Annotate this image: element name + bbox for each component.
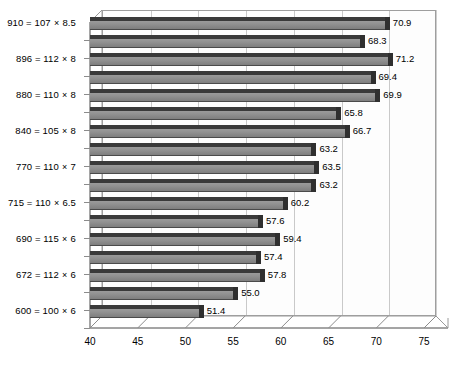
bar-end-cap [375, 89, 380, 102]
bar-value-label: 69.9 [383, 90, 402, 100]
category-label: 840 = 105 × 8 [15, 126, 76, 136]
bar-end-cap [275, 233, 280, 246]
bar-front-face [90, 111, 336, 120]
bar-front-face [90, 93, 375, 102]
bar-end-cap [336, 107, 341, 120]
bar[interactable] [90, 197, 288, 210]
bar-chart: 910 = 107 × 8.5896 = 112 × 8880 = 110 × … [0, 0, 459, 366]
bar-value-label: 51.4 [207, 306, 226, 316]
bar[interactable] [90, 233, 280, 246]
x-tick-label: 55 [228, 336, 239, 347]
bar-end-cap [199, 305, 204, 318]
category-label: 600 = 100 × 6 [15, 306, 76, 316]
bar-value-label: 57.8 [268, 270, 287, 280]
bar-front-face [90, 219, 258, 228]
bar-front-face [90, 237, 275, 246]
bar[interactable] [90, 215, 263, 228]
bar[interactable] [90, 35, 365, 48]
bar[interactable] [90, 125, 350, 138]
bar-front-face [90, 291, 233, 300]
y-tick-mark [84, 310, 90, 311]
y-tick-mark [84, 94, 90, 95]
x-tick-label: 40 [84, 336, 95, 347]
bar-value-label: 63.2 [319, 180, 338, 190]
category-label: 880 = 110 × 8 [16, 90, 76, 100]
bar-value-label: 57.4 [264, 252, 283, 262]
bar-value-label: 57.6 [266, 216, 285, 226]
bar-front-face [90, 273, 260, 282]
x-tick-label: 70 [371, 336, 382, 347]
bar[interactable] [90, 251, 261, 264]
category-label: 672 = 112 × 6 [16, 270, 76, 280]
bar-front-face [90, 129, 345, 138]
bar[interactable] [90, 89, 380, 102]
bar[interactable] [90, 305, 204, 318]
x-tick-label: 75 [418, 336, 429, 347]
category-label: 910 = 107 × 8.5 [7, 18, 76, 28]
bar-end-cap [233, 287, 238, 300]
bar-front-face [90, 309, 199, 318]
bar-end-cap [388, 53, 393, 66]
bar-front-face [90, 255, 256, 264]
bar-front-face [90, 201, 283, 210]
bar-value-label: 69.4 [379, 72, 398, 82]
bar-end-cap [311, 179, 316, 192]
bar[interactable] [90, 287, 238, 300]
y-tick-mark [84, 184, 90, 185]
bar-value-label: 65.8 [344, 108, 363, 118]
y-tick-mark [84, 220, 90, 221]
bar-front-face [90, 21, 385, 30]
bar-value-label: 68.3 [368, 36, 387, 46]
bar-value-label: 70.9 [393, 18, 412, 28]
bar-end-cap [260, 269, 265, 282]
bar-end-cap [314, 161, 319, 174]
bar-front-face [90, 39, 360, 48]
x-tick-label: 60 [275, 336, 286, 347]
y-tick-mark [84, 130, 90, 131]
category-label: 896 = 112 × 8 [16, 54, 76, 64]
bar[interactable] [90, 143, 316, 156]
x-tick-label: 65 [323, 336, 334, 347]
bar[interactable] [90, 107, 341, 120]
bar-value-label: 71.2 [396, 54, 415, 64]
category-label: 770 = 110 × 7 [16, 162, 76, 172]
bar-end-cap [371, 71, 376, 84]
bar-value-label: 59.4 [283, 234, 302, 244]
bar-front-face [90, 183, 311, 192]
bar-front-face [90, 165, 314, 174]
x-tick-label: 50 [180, 336, 191, 347]
bar-end-cap [385, 17, 390, 30]
bar-end-cap [345, 125, 350, 138]
bar[interactable] [90, 53, 393, 66]
category-label: 690 = 115 × 6 [16, 234, 76, 244]
bar[interactable] [90, 71, 376, 84]
bar-end-cap [258, 215, 263, 228]
bar-value-label: 63.2 [319, 144, 338, 154]
x-axis-tick-labels: 4045505560657075 [0, 336, 459, 356]
bar-value-label: 66.7 [353, 126, 372, 136]
x-tick-label: 45 [132, 336, 143, 347]
y-tick-mark [84, 40, 90, 41]
bar-value-label: 55.0 [241, 288, 260, 298]
y-tick-mark [84, 238, 90, 239]
y-tick-mark [84, 58, 90, 59]
bar-end-cap [360, 35, 365, 48]
bar-front-face [90, 75, 371, 84]
bar-end-cap [311, 143, 316, 156]
y-tick-mark [84, 256, 90, 257]
y-tick-mark [84, 202, 90, 203]
bar[interactable] [90, 17, 390, 30]
y-tick-mark [84, 166, 90, 167]
category-axis-labels: 910 = 107 × 8.5896 = 112 × 8880 = 110 × … [0, 0, 78, 366]
y-tick-mark [84, 112, 90, 113]
bar-value-label: 63.5 [322, 162, 341, 172]
bar-front-face [90, 147, 311, 156]
y-tick-mark [84, 148, 90, 149]
y-tick-mark [84, 274, 90, 275]
bar[interactable] [90, 161, 319, 174]
y-tick-mark [84, 292, 90, 293]
bar-value-label: 60.2 [291, 198, 310, 208]
bar[interactable] [90, 179, 316, 192]
y-tick-mark [84, 328, 90, 329]
bar[interactable] [90, 269, 265, 282]
